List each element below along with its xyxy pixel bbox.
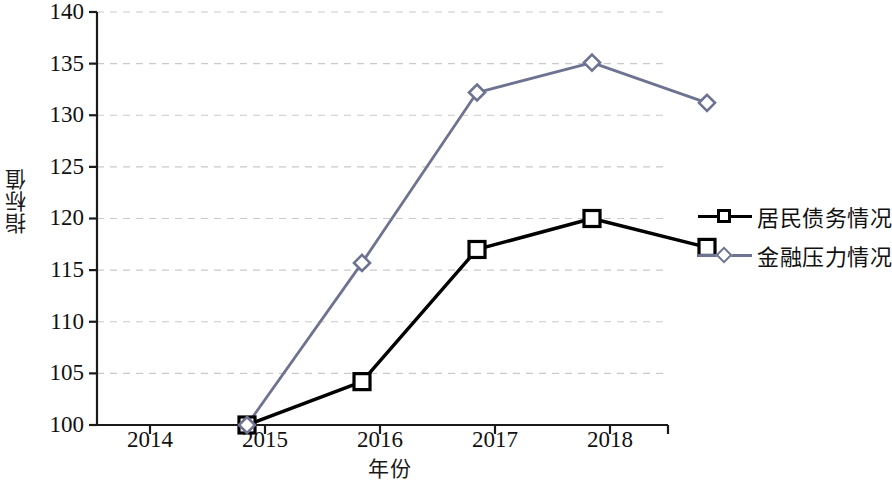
data-point-2-2016 bbox=[469, 85, 485, 101]
legend-swatch-financial-pressure bbox=[698, 244, 752, 266]
legend-label-financial-pressure: 金融压力情况 bbox=[757, 239, 892, 271]
data-point-1-2015 bbox=[354, 374, 370, 390]
legend-item-resident-debt: 居民债务情况 bbox=[698, 196, 888, 235]
chart-legend: 居民债务情况 金融压力情况 bbox=[698, 196, 888, 274]
series-markers bbox=[239, 55, 715, 433]
data-point-2-2017 bbox=[584, 55, 600, 71]
diamond-marker-icon bbox=[716, 246, 733, 263]
legend-label-resident-debt: 居民债务情况 bbox=[757, 200, 892, 232]
legend-swatch-resident-debt bbox=[698, 205, 752, 227]
square-marker-icon bbox=[717, 209, 731, 223]
data-point-1-2016 bbox=[469, 241, 485, 257]
data-point-1-2017 bbox=[584, 211, 600, 227]
data-point-2-2018 bbox=[699, 95, 715, 111]
legend-item-financial-pressure: 金融压力情况 bbox=[698, 235, 888, 274]
